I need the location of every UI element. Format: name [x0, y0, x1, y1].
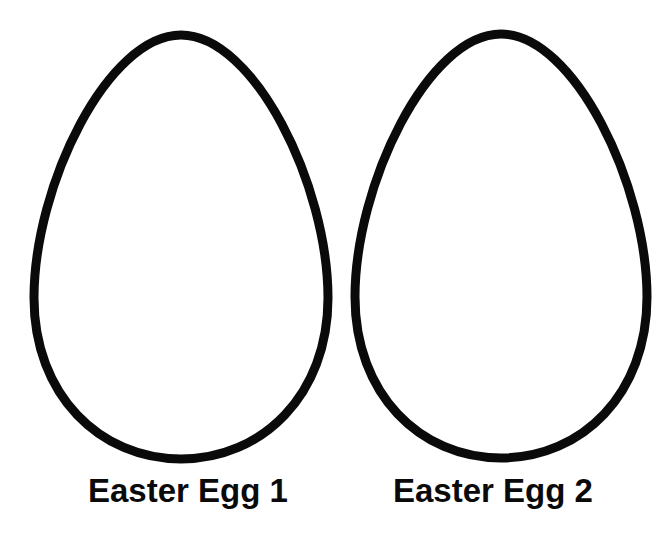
coloring-sheet: Easter Egg 1 Easter Egg 2 [0, 0, 670, 533]
easter-egg-1-outline[interactable] [34, 35, 328, 459]
easter-egg-2-outline[interactable] [355, 34, 647, 458]
easter-egg-2-label: Easter Egg 2 [393, 472, 593, 510]
eggs-drawing [0, 0, 670, 533]
easter-egg-1-label: Easter Egg 1 [88, 472, 288, 510]
